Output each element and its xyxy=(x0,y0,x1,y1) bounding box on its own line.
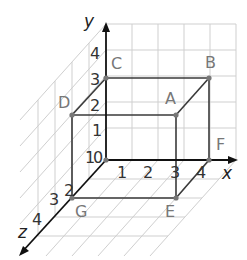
point-label-e: E xyxy=(165,202,175,221)
y-tick-2: 2 xyxy=(90,96,100,115)
z-axis xyxy=(22,160,106,252)
x-tick-2: 2 xyxy=(143,163,153,182)
z-axis-label: z xyxy=(17,222,28,242)
point-label-f: F xyxy=(216,135,225,154)
coordinate-diagram: y x z 4 3 2 1 0 1 2 3 4 1 2 3 4 C B D A … xyxy=(0,0,247,260)
x-tick-1: 1 xyxy=(117,163,127,182)
point-label-d: D xyxy=(58,93,70,112)
y-tick-3: 3 xyxy=(90,70,100,89)
point-label-c: C xyxy=(111,54,122,73)
y-axis-label: y xyxy=(83,11,95,31)
y-tick-4: 4 xyxy=(90,44,100,63)
z-tick-4: 4 xyxy=(32,210,42,229)
z-tick-3: 3 xyxy=(49,190,59,209)
point-label-b: B xyxy=(205,53,216,72)
z-arrow-icon xyxy=(19,246,29,256)
axes xyxy=(22,28,232,252)
z-tick-2: 2 xyxy=(64,181,74,200)
point-label-g: G xyxy=(75,202,87,221)
y-tick-1: 1 xyxy=(92,121,102,140)
z-tick-1: 1 xyxy=(85,148,95,167)
x-axis-label: x xyxy=(221,163,233,183)
xz-grid xyxy=(38,160,236,256)
x-tick-4: 4 xyxy=(196,163,206,182)
point-label-a: A xyxy=(165,89,176,108)
x-tick-3: 3 xyxy=(170,163,180,182)
